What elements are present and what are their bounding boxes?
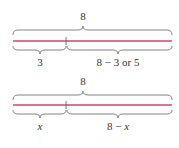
total-length-label: 8 — [80, 75, 86, 87]
total-length-label: 8 — [80, 10, 86, 22]
segment-diagrams: 8 3 8 − 3 or 5 8 x 8 − x — [0, 0, 179, 148]
right-length-variable: x — [123, 120, 129, 132]
right-brace — [67, 46, 172, 54]
right-length-label: 8 − x — [107, 120, 129, 132]
right-length-prefix: 8 − — [107, 120, 124, 132]
top-brace — [13, 26, 172, 35]
left-length-label: x — [37, 120, 43, 132]
diagram-1: 8 3 8 − 3 or 5 — [13, 10, 172, 68]
left-brace — [13, 46, 66, 54]
left-brace — [13, 110, 66, 118]
right-length-label: 8 − 3 or 5 — [97, 56, 140, 68]
top-brace — [13, 91, 172, 100]
right-brace — [67, 110, 172, 118]
left-length-label: 3 — [37, 56, 43, 68]
diagram-2: 8 x 8 − x — [13, 75, 172, 132]
